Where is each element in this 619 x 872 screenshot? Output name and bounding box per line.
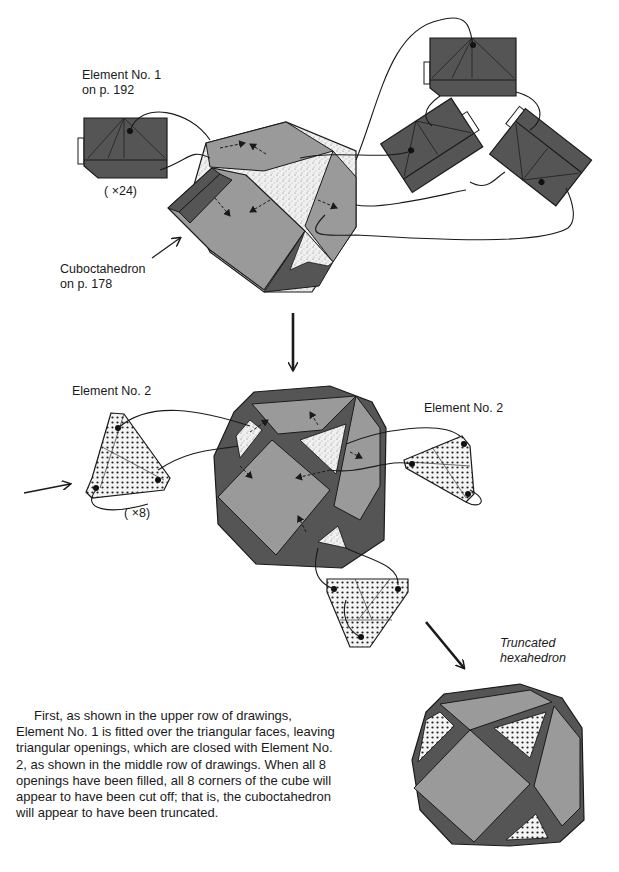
element2-unit-right [404,436,474,502]
cuboctahedron-label-line2: on p. 178 [60,277,145,292]
element1-unit-left [78,118,167,178]
element2-unit-left [86,413,170,498]
element1-unit-bottom-left [381,95,488,193]
arrow-diagonal-icon [426,622,464,668]
element1-label-line2: on p. 192 [82,83,161,98]
truncated-hexahedron-label: Truncated hexahedron [500,636,566,666]
count-24-label: ( ×24) [104,184,137,199]
element2-right-label: Element No. 2 [424,401,503,416]
pointer-arrow-icon [152,238,180,258]
cuboctahedron-label-line1: Cuboctahedron [60,262,145,277]
cuboctahedron-label: Cuboctahedron on p. 178 [60,262,145,292]
element1-label-line1: Element No. 1 [82,68,161,83]
element2-left-label: Element No. 2 [72,384,151,399]
arrow-right-icon [24,484,70,493]
truncating-cube-shape [214,386,386,568]
truncated-label-line2: hexahedron [500,651,566,666]
element1-unit-top [424,38,516,96]
element2-unit-bottom [327,579,408,647]
truncated-label-line1: Truncated [500,636,566,651]
element1-label: Element No. 1 on p. 192 [82,68,161,98]
count-8-label: ( ×8) [124,506,150,521]
cuboctahedron-shape [168,122,356,292]
description-paragraph: First, as shown in the upper row of draw… [16,708,336,821]
truncated-hexahedron-shape [412,684,584,846]
